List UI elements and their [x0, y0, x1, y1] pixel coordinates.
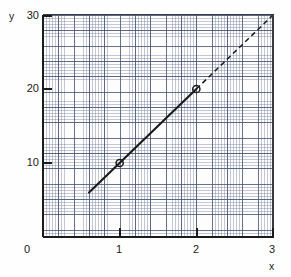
x-axis-line	[43, 236, 274, 238]
x-axis-title: x	[269, 261, 274, 272]
y-axis-title: y	[9, 11, 14, 22]
y-axis-line	[42, 15, 44, 237]
plot-right-border	[272, 15, 274, 237]
data-series-layer	[43, 15, 273, 237]
x-tick-label-2: 2	[186, 244, 206, 255]
y-tick-30	[43, 15, 52, 17]
y-tick-10	[43, 162, 52, 164]
x-tick-label-3: 3	[262, 244, 282, 255]
x-tick-label-1: 1	[109, 244, 129, 255]
x-tick-2	[196, 228, 198, 237]
x-tick-3	[272, 228, 274, 237]
series-line-solid	[89, 89, 196, 193]
y-tick-label-20: 20	[8, 83, 39, 94]
origin-label: 0	[24, 244, 30, 255]
x-tick-1	[119, 228, 121, 237]
y-tick-label-10: 10	[8, 157, 39, 168]
plot-area	[43, 15, 273, 237]
series-line-dashed	[196, 15, 273, 89]
chart-figure: 30 20 10 0 1 2 3 y x	[0, 0, 291, 277]
plot-top-border	[43, 14, 274, 15]
y-tick-20	[43, 88, 52, 90]
